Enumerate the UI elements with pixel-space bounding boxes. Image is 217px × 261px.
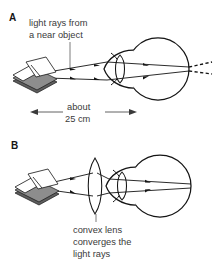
panel-b-caption-line-3: light rays — [73, 249, 111, 259]
panel-b-eyeball — [129, 155, 191, 217]
panel-a-eyeball — [127, 38, 189, 100]
panel-b-crystalline-lens — [118, 172, 127, 200]
panel-b-caption-line-1: convex lens — [73, 225, 122, 235]
panel-a-caption-line-2: a near object — [29, 30, 83, 40]
optics-figure: A light rays from a near object — [0, 0, 217, 261]
panel-a-measure-line-2: 25 cm — [65, 114, 91, 124]
figure-canvas: A light rays from a near object — [0, 0, 217, 261]
panel-a-measure-line-1: about — [67, 102, 91, 112]
panel-b-caption-line-2: converges the — [73, 237, 131, 247]
panel-a-caption-line-1: light rays from — [29, 18, 88, 28]
panel-b-letter: B — [11, 140, 18, 151]
panel-a-letter: A — [9, 12, 16, 23]
